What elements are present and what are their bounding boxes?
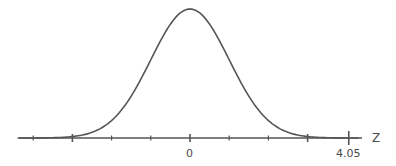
tick-label-marker: 4.05 (336, 147, 361, 160)
normal-distribution-chart: 0 4.05 Z (0, 0, 396, 166)
tick-label-zero: 0 (186, 147, 193, 160)
normal-curve (18, 9, 359, 138)
axis-label-z: Z (372, 131, 380, 145)
